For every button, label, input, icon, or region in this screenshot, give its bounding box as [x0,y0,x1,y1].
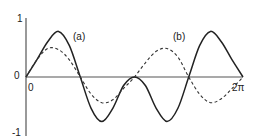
y-tick-label-1: 1 [17,14,23,24]
x-tick-label-0: 0 [28,83,34,93]
x-tick-label-2pi: 2π [232,83,244,93]
y-tick-label-neg1: -1 [12,128,21,138]
y-tick-label-0: 0 [14,71,20,81]
series-b-dashed-curve [26,48,243,103]
annotation-b: (b) [173,32,185,42]
line-chart [0,0,255,140]
annotation-a: (a) [73,32,85,42]
